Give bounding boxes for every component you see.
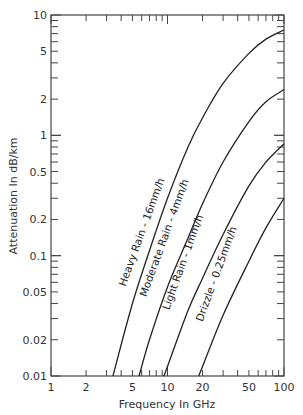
x-tick-label: 50 <box>242 381 256 394</box>
y-tick-label: 0.1 <box>30 250 48 263</box>
x-axis-label: Frequency In GHz <box>119 398 216 411</box>
curve-labels: Heavy Rain - 16mm/hModerate Rain - 4mm/h… <box>116 176 239 323</box>
x-tick-labels: 125102050100 <box>48 381 295 394</box>
x-tick-label: 2 <box>83 381 90 394</box>
x-tick-label: 20 <box>196 381 210 394</box>
y-tick-label: 10 <box>33 9 47 22</box>
x-tick-label: 10 <box>161 381 175 394</box>
y-tick-label: 0.05 <box>23 286 48 299</box>
attenuation-chart: 125102050100 0.010.020.050.10.20.512510 … <box>0 0 303 415</box>
x-tick-label: 1 <box>48 381 55 394</box>
y-tick-label: 5 <box>40 45 47 58</box>
y-tick-label: 0.02 <box>23 334 48 347</box>
curve-label: Drizzle - 0.25mm/h <box>193 225 239 323</box>
y-tick-label: 0.2 <box>30 213 48 226</box>
y-tick-labels: 0.010.020.050.10.20.512510 <box>23 9 48 383</box>
y-tick-label: 0.5 <box>30 166 48 179</box>
y-axis-label: Attenuation In dB/km <box>7 137 20 254</box>
series-curve <box>113 30 284 376</box>
y-tick-label: 1 <box>40 129 47 142</box>
y-tick-label: 0.01 <box>23 370 48 383</box>
curves <box>113 30 284 376</box>
x-tick-label: 5 <box>129 381 136 394</box>
y-tick-label: 2 <box>40 93 47 106</box>
axis-ticks <box>51 15 284 376</box>
plot-frame <box>51 15 284 376</box>
x-tick-label: 100 <box>274 381 295 394</box>
